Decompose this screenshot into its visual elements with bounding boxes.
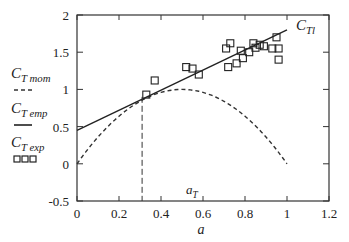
x-tick-label: 0.6 bbox=[195, 206, 212, 221]
legend-exp-square bbox=[14, 156, 20, 162]
x-tick-label: 0.4 bbox=[153, 206, 170, 221]
x-tick-label: 0 bbox=[74, 206, 81, 221]
x-tick-label: 1 bbox=[284, 206, 291, 221]
legend-emp-label: CT emp bbox=[11, 100, 48, 119]
ct-tl-label: CTl bbox=[296, 17, 315, 36]
legend-exp-square bbox=[22, 156, 28, 162]
legend-mom-label: CT mom bbox=[11, 65, 51, 84]
data-point bbox=[275, 56, 282, 63]
data-point bbox=[225, 64, 232, 71]
x-tick-label: 0.2 bbox=[111, 206, 127, 221]
y-tick-label: 1.5 bbox=[53, 45, 69, 60]
chart: 00.20.40.60.811.2-0.500.511.52aCTlaTCT m… bbox=[0, 0, 349, 242]
y-tick-label: -0.5 bbox=[48, 194, 69, 209]
x-tick-label: 0.8 bbox=[237, 206, 253, 221]
series-ct-emp bbox=[77, 30, 287, 130]
plot: 00.20.40.60.811.2-0.500.511.52aCTlaTCT m… bbox=[0, 0, 349, 242]
x-axis-label: a bbox=[198, 222, 205, 237]
y-tick-label: 1 bbox=[63, 82, 70, 97]
a-t-label: aT bbox=[186, 182, 199, 200]
data-point bbox=[151, 77, 158, 84]
x-tick-label: 1.2 bbox=[321, 206, 337, 221]
legend-exp-label: CT exp bbox=[11, 134, 45, 153]
y-tick-label: 2 bbox=[63, 8, 70, 23]
y-tick-label: 0 bbox=[63, 157, 70, 172]
data-point bbox=[227, 40, 234, 47]
plot-frame bbox=[77, 15, 329, 201]
series-ct-mom bbox=[77, 89, 287, 163]
data-point bbox=[223, 45, 230, 52]
legend-exp-square bbox=[30, 156, 36, 162]
y-tick-label: 0.5 bbox=[53, 120, 69, 135]
